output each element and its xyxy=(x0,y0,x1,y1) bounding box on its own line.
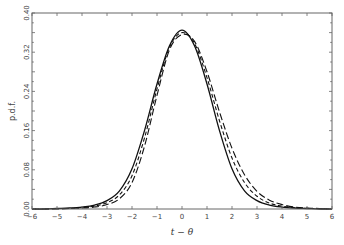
x-tick-label: 5 xyxy=(305,213,309,221)
y-tick-label: 0.32 xyxy=(23,44,31,60)
pdf-chart: −6−5−4−3−2−10123456 0.000.080.160.240.32… xyxy=(0,0,344,245)
x-tick-label: 2 xyxy=(230,213,234,221)
curve-short-dash xyxy=(32,33,332,210)
y-tick-label: 0.00 xyxy=(23,201,31,217)
y-tick-label: 0.16 xyxy=(23,122,31,138)
y-axis-title: p.d.f. xyxy=(8,101,17,121)
x-tick-label: 0 xyxy=(180,213,184,221)
x-tick-label: −4 xyxy=(77,213,88,221)
y-tick-label: 0.24 xyxy=(23,83,31,99)
curve-long-dash xyxy=(32,34,332,209)
x-tick-label: 3 xyxy=(255,213,259,221)
x-axis-ticks: −6−5−4−3−2−10123456 xyxy=(27,13,335,221)
plot-frame xyxy=(32,13,332,209)
y-tick-label: 0.40 xyxy=(23,5,31,21)
y-tick-label: 0.08 xyxy=(23,162,31,178)
x-tick-label: 6 xyxy=(330,213,335,221)
plot-area xyxy=(32,30,332,209)
x-tick-label: 4 xyxy=(280,213,285,221)
x-tick-label: −1 xyxy=(152,213,162,221)
x-tick-label: −2 xyxy=(127,213,137,221)
x-axis-title: t − θ xyxy=(171,227,194,237)
x-tick-label: 1 xyxy=(205,213,209,221)
curve-solid xyxy=(32,30,332,209)
x-tick-label: −5 xyxy=(52,213,62,221)
x-tick-label: −3 xyxy=(102,213,112,221)
